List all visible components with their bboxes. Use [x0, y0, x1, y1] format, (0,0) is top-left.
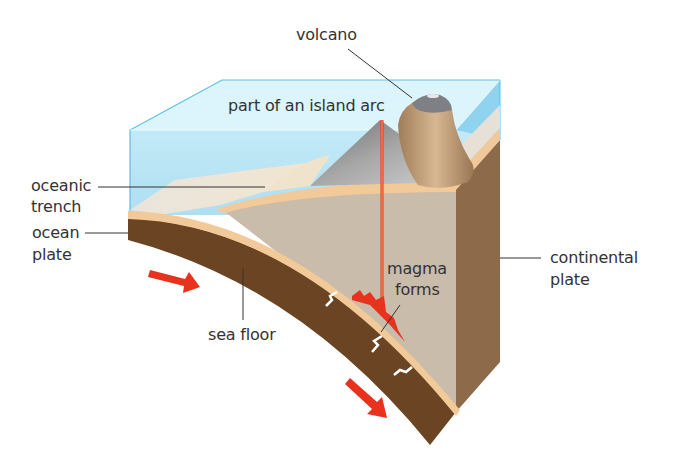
label-magma-1: magma — [387, 258, 447, 279]
label-oceanic-trench-1: oceanic — [31, 175, 91, 196]
label-magma-2: forms — [395, 279, 440, 300]
label-oceanic-trench-2: trench — [31, 196, 81, 217]
label-ocean-plate-2: plate — [32, 244, 72, 265]
plate-motion-arrow-left — [148, 270, 200, 293]
label-sea-floor: sea floor — [208, 324, 276, 345]
subduction-diagram — [0, 0, 676, 459]
label-continental-plate-2: plate — [550, 269, 590, 290]
label-ocean-plate-1: ocean — [32, 222, 79, 243]
label-island-arc: part of an island arc — [228, 95, 384, 116]
label-volcano: volcano — [296, 24, 357, 45]
label-continental-plate-1: continental — [550, 247, 638, 268]
